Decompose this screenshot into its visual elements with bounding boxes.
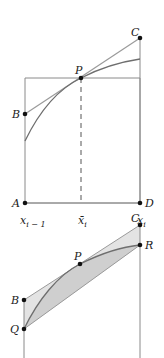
point-A — [23, 201, 28, 206]
label-P: P — [74, 64, 83, 77]
function-curve — [25, 59, 140, 141]
tangent-line-BC — [25, 38, 140, 114]
label-P-bottom: P — [73, 250, 82, 263]
label-C-bottom: C — [131, 212, 140, 225]
point-D — [138, 201, 143, 206]
point-B — [23, 112, 28, 117]
label-D: D — [144, 197, 154, 210]
point-Q — [22, 327, 27, 332]
chord-QR — [24, 245, 140, 329]
label-B: B — [11, 108, 20, 121]
label-Q: Q — [10, 323, 19, 336]
axis-label-left: xi − 1 — [20, 214, 46, 229]
label-B-bottom: B — [10, 294, 19, 307]
label-R: R — [144, 239, 153, 252]
label-C: C — [131, 26, 140, 39]
axis-label-mid: x̄i — [78, 214, 87, 229]
midpoint-trapezoid-diagram: C P B A D xi − 1 x̄i xi — [0, 0, 164, 358]
midpoint-rectangle — [25, 78, 140, 203]
label-A: A — [11, 197, 20, 210]
bottom-diagram: C R P B Q — [10, 212, 153, 358]
point-B-bottom — [22, 298, 27, 303]
top-diagram: C P B A D xi − 1 x̄i xi — [11, 26, 154, 229]
point-R — [138, 243, 143, 248]
